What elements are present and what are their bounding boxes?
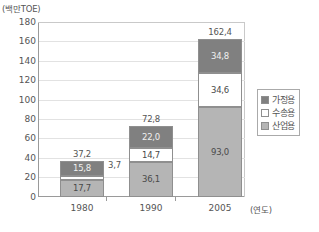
bar-segment-label-transport-1980: 3,7	[108, 160, 121, 170]
bar-segment-transport-2005: 34,6	[198, 73, 242, 107]
bar-segment-home-2005: 34,8	[198, 39, 242, 73]
x-tick-mark-1	[106, 197, 107, 201]
bar-segment-label-industry-2005: 93,0	[211, 148, 229, 157]
x-axis-label-2005: 2005	[209, 203, 232, 213]
legend-swatch-transport-icon	[261, 109, 269, 117]
bar-segment-label-industry-1990: 36,1	[142, 175, 160, 184]
bar-group-1980: 37,2 15,8 17,7	[60, 161, 104, 197]
bar-segment-industry-1990: 36,1	[129, 162, 173, 197]
legend-label-transport: 수송용	[272, 106, 295, 119]
bar-segment-label-transport-1990: 14,7	[142, 151, 160, 160]
x-axis-label-1980: 1980	[71, 203, 94, 213]
bar-total-label-1980: 37,2	[73, 149, 91, 159]
y-tick-80: 80	[2, 114, 36, 124]
bar-segment-label-home-2005: 34,8	[211, 52, 229, 61]
bar-segment-label-transport-2005: 34,6	[211, 86, 229, 95]
bar-segment-home-1980: 15,8	[60, 161, 104, 176]
bar-total-label-2005: 162,4	[208, 27, 231, 37]
legend-item-home: 가정용	[261, 93, 295, 106]
bar-segment-industry-1980: 17,7	[60, 180, 104, 197]
y-tick-120: 120	[2, 75, 36, 85]
y-axis-tick-labels: 180 160 140 120 100 80 60 40 20 0	[0, 0, 36, 232]
bar-segment-label-industry-1980: 17,7	[73, 184, 91, 193]
bar-group-2005: 162,4 34,8 34,6 93,0	[198, 39, 242, 197]
bar-segment-transport-1990: 14,7	[129, 148, 173, 162]
legend-label-home: 가정용	[272, 93, 295, 106]
bar-group-1990: 72,8 22,0 14,7 36,1	[129, 126, 173, 197]
bar-segment-label-home-1980: 15,8	[73, 164, 91, 173]
x-axis-label-1990: 1990	[140, 203, 163, 213]
bar-segment-label-home-1990: 22,0	[142, 133, 160, 142]
x-axis-unit-label: (연도)	[250, 203, 272, 215]
y-tick-0: 0	[2, 192, 36, 202]
legend-item-transport: 수송용	[261, 106, 295, 119]
y-tick-60: 60	[2, 133, 36, 143]
bar-segment-home-1990: 22,0	[129, 126, 173, 147]
y-tick-180: 180	[2, 17, 36, 27]
bar-segment-industry-2005: 93,0	[198, 107, 242, 197]
y-tick-40: 40	[2, 153, 36, 163]
y-tick-140: 140	[2, 56, 36, 66]
y-tick-20: 20	[2, 172, 36, 182]
legend-swatch-industry-icon	[261, 122, 269, 130]
legend-item-industry: 산업용	[261, 119, 295, 132]
y-tick-160: 160	[2, 36, 36, 46]
plot-top-border	[38, 22, 245, 23]
bar-total-label-1990: 72,8	[142, 114, 160, 124]
legend-swatch-home-icon	[261, 96, 269, 104]
legend-label-industry: 산업용	[272, 119, 295, 132]
x-tick-mark-2	[175, 197, 176, 201]
chart-legend: 가정용 수송용 산업용	[257, 89, 300, 136]
stacked-bar-chart: (백만TOE) 180 160 140 120 100 80 60 40 20 …	[0, 0, 319, 232]
y-tick-100: 100	[2, 95, 36, 105]
plot-right-border	[244, 22, 245, 197]
